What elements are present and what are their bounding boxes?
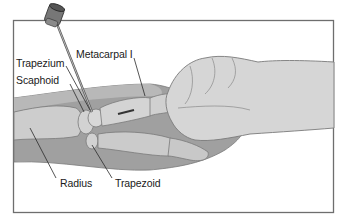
wrist-injection-diagram [0, 0, 347, 222]
trapezoid-bone [86, 133, 98, 149]
label-trapezium: Trapezium [16, 58, 64, 69]
label-trapezoid: Trapezoid [115, 178, 160, 189]
radius-bone [14, 106, 82, 140]
illustration: Metacarpal I Trapezium Scaphoid Radius T… [0, 0, 347, 222]
label-radius: Radius [60, 178, 92, 189]
label-scaphoid: Scaphoid [16, 75, 59, 86]
label-metacarpal-i: Metacarpal I [76, 49, 133, 60]
